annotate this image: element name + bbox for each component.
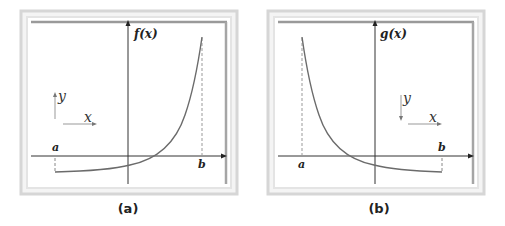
panel-b: g(x) a b y x (b) bbox=[0, 0, 505, 226]
function-label-g: g(x) bbox=[380, 27, 407, 41]
legend-x-label: x bbox=[429, 109, 437, 125]
bound-label-b: b bbox=[438, 141, 446, 154]
legend-y-label: y bbox=[403, 90, 411, 106]
caption-b: (b) bbox=[349, 201, 409, 216]
bound-label-a: a bbox=[298, 158, 305, 171]
